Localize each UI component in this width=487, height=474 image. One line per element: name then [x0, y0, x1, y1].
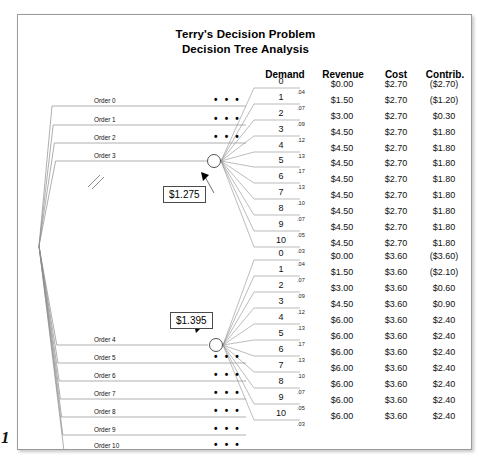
- decision-branch-label-4[interactable]: Order 4: [94, 335, 116, 344]
- revenue-value: $6.00: [314, 395, 370, 406]
- demand-value: 1: [270, 264, 292, 275]
- contrib-value: $2.40: [416, 315, 472, 326]
- collapsed-subtree-marker[interactable]: • • •: [214, 114, 241, 124]
- contrib-value: $1.80: [416, 238, 472, 249]
- branch-probability: .13: [297, 153, 305, 160]
- contrib-value: $1.80: [416, 143, 472, 154]
- branch-probability: .05: [297, 405, 305, 412]
- demand-value: 3: [270, 124, 292, 135]
- branch-probability: .17: [297, 341, 305, 348]
- expected-value-box-upper[interactable]: $1.275: [163, 186, 206, 203]
- revenue-value: $3.00: [314, 111, 370, 122]
- decision-branch-label-5[interactable]: Order 5: [94, 353, 116, 362]
- decision-branch-label-7[interactable]: Order 7: [94, 389, 116, 398]
- demand-value: 10: [270, 408, 292, 419]
- decision-branch-label-10[interactable]: Order 10: [94, 441, 119, 450]
- revenue-value: $4.50: [314, 206, 370, 217]
- decision-branch-label-9[interactable]: Order 9: [94, 425, 116, 434]
- branch-probability: .10: [297, 373, 305, 380]
- demand-value: 2: [270, 108, 292, 119]
- demand-value: 1: [270, 92, 292, 103]
- contrib-value: $1.80: [416, 158, 472, 169]
- decision-branch-label-8[interactable]: Order 8: [94, 407, 116, 416]
- contrib-value: $1.80: [416, 206, 472, 217]
- revenue-value: $3.00: [314, 283, 370, 294]
- demand-value: 8: [270, 376, 292, 387]
- branch-probability: .09: [297, 121, 305, 128]
- revenue-value: $4.50: [314, 158, 370, 169]
- contrib-value: $0.30: [416, 111, 472, 122]
- collapsed-subtree-marker[interactable]: • • •: [214, 440, 241, 450]
- contrib-value: $2.40: [416, 347, 472, 358]
- branch-probability: .03: [297, 421, 305, 428]
- branch-probability: .07: [297, 105, 305, 112]
- revenue-value: $0.00: [314, 79, 370, 90]
- branch-probability: .12: [297, 137, 305, 144]
- demand-value: 4: [270, 140, 292, 151]
- revenue-value: $4.50: [314, 143, 370, 154]
- revenue-value: $4.50: [314, 174, 370, 185]
- branch-probability: .07: [297, 216, 305, 223]
- demand-value: 4: [270, 312, 292, 323]
- decision-branch-label-0[interactable]: Order 0: [94, 96, 116, 105]
- contrib-value: $0.60: [416, 283, 472, 294]
- revenue-value: $6.00: [314, 363, 370, 374]
- selected-branch-arrow: [201, 172, 209, 181]
- contrib-value: $1.80: [416, 190, 472, 201]
- collapsed-subtree-marker[interactable]: • • •: [214, 370, 241, 380]
- branch-probability: .12: [297, 309, 305, 316]
- demand-value: 8: [270, 203, 292, 214]
- branch-probability: .13: [297, 325, 305, 332]
- contrib-value: $2.40: [416, 331, 472, 342]
- decision-branch-label-2[interactable]: Order 2: [94, 133, 116, 142]
- demand-value: 7: [270, 187, 292, 198]
- demand-value: 3: [270, 296, 292, 307]
- demand-value: 0: [270, 76, 292, 87]
- branch-probability: .07: [297, 389, 305, 396]
- collapsed-subtree-marker[interactable]: • • •: [214, 424, 241, 434]
- demand-value: 6: [270, 344, 292, 355]
- contrib-value: $0.90: [416, 299, 472, 310]
- contrib-value: ($2.70): [416, 79, 472, 90]
- decision-branch-label-1[interactable]: Order 1: [94, 115, 116, 124]
- collapsed-subtree-marker[interactable]: • • •: [214, 352, 241, 362]
- contrib-value: $2.40: [416, 363, 472, 374]
- revenue-value: $6.00: [314, 315, 370, 326]
- branch-probability: .04: [297, 261, 305, 268]
- revenue-value: $4.50: [314, 238, 370, 249]
- revenue-value: $4.50: [314, 222, 370, 233]
- branch-probability: .13: [297, 357, 305, 364]
- revenue-value: $1.50: [314, 95, 370, 106]
- collapsed-subtree-marker[interactable]: • • •: [214, 95, 241, 105]
- revenue-value: $0.00: [314, 251, 370, 262]
- collapsed-subtree-marker[interactable]: • • •: [214, 132, 241, 142]
- chance-node-upper[interactable]: [208, 155, 221, 168]
- revenue-value: $4.50: [314, 127, 370, 138]
- contrib-value: $1.80: [416, 127, 472, 138]
- branch-probability: .05: [297, 232, 305, 239]
- revenue-value: $6.00: [314, 331, 370, 342]
- branch-probability: .07: [297, 277, 305, 284]
- decision-branch-label-6[interactable]: Order 6: [94, 371, 116, 380]
- contrib-value: $1.80: [416, 174, 472, 185]
- branch-probability: .13: [297, 184, 305, 191]
- expected-value-box-lower[interactable]: $1.395: [170, 312, 213, 329]
- revenue-value: $4.50: [314, 190, 370, 201]
- branch-probability: .10: [297, 200, 305, 207]
- contrib-value: ($1.20): [416, 95, 472, 106]
- revenue-value: $6.00: [314, 379, 370, 390]
- page-title-line-1: Terry's Decision Problem: [18, 28, 472, 40]
- collapsed-subtree-marker[interactable]: • • •: [214, 388, 241, 398]
- demand-value: 5: [270, 328, 292, 339]
- contrib-value: $2.40: [416, 395, 472, 406]
- demand-value: 0: [270, 248, 292, 259]
- decision-tree-panel: Terry's Decision Problem Decision Tree A…: [17, 14, 472, 450]
- chance-node-lower[interactable]: [210, 339, 223, 352]
- branch-probability: .09: [297, 293, 305, 300]
- revenue-value: $6.00: [314, 411, 370, 422]
- collapsed-subtree-marker[interactable]: • • •: [214, 406, 241, 416]
- contrib-value: ($3.60): [416, 251, 472, 262]
- revenue-value: $1.50: [314, 267, 370, 278]
- contrib-value: $1.80: [416, 222, 472, 233]
- decision-branch-label-3[interactable]: Order 3: [94, 151, 116, 160]
